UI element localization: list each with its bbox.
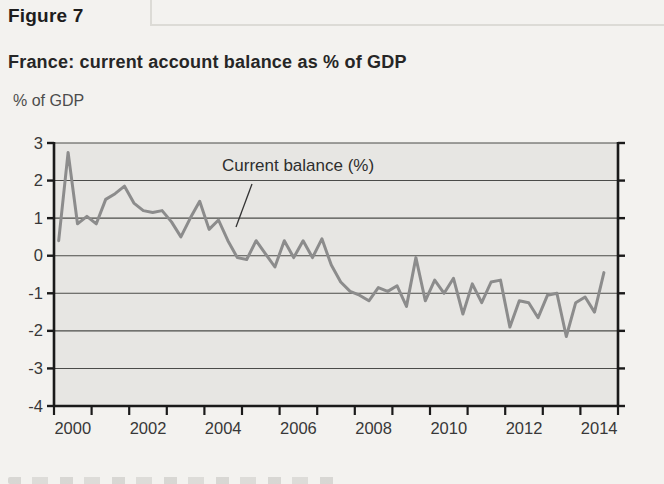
y-tick-label--2: -2: [28, 321, 43, 339]
x-tick-label-2002: 2002: [130, 419, 167, 437]
x-tick-label-2006: 2006: [280, 419, 317, 437]
x-tick-label-2012: 2012: [506, 419, 543, 437]
cropped-source-text-fragment: [8, 477, 338, 484]
x-tick-label-2000: 2000: [54, 419, 91, 437]
y-tick-label--1: -1: [28, 284, 43, 302]
x-tick-label-2004: 2004: [205, 419, 242, 437]
y-tick-label-3: 3: [34, 134, 43, 152]
series-annotation-label: Current balance (%): [222, 156, 374, 175]
y-tick-label-1: 1: [34, 209, 43, 227]
x-tick-label-2008: 2008: [355, 419, 392, 437]
x-tick-label-2014: 2014: [581, 419, 618, 437]
x-tick-label-2010: 2010: [430, 419, 467, 437]
line-chart: 3210-1-2-3-42000200220042006200820102012…: [0, 0, 664, 484]
y-tick-label-2: 2: [34, 171, 43, 189]
y-tick-label--3: -3: [28, 359, 43, 377]
y-tick-label-0: 0: [34, 246, 43, 264]
y-tick-label--4: -4: [28, 397, 43, 415]
